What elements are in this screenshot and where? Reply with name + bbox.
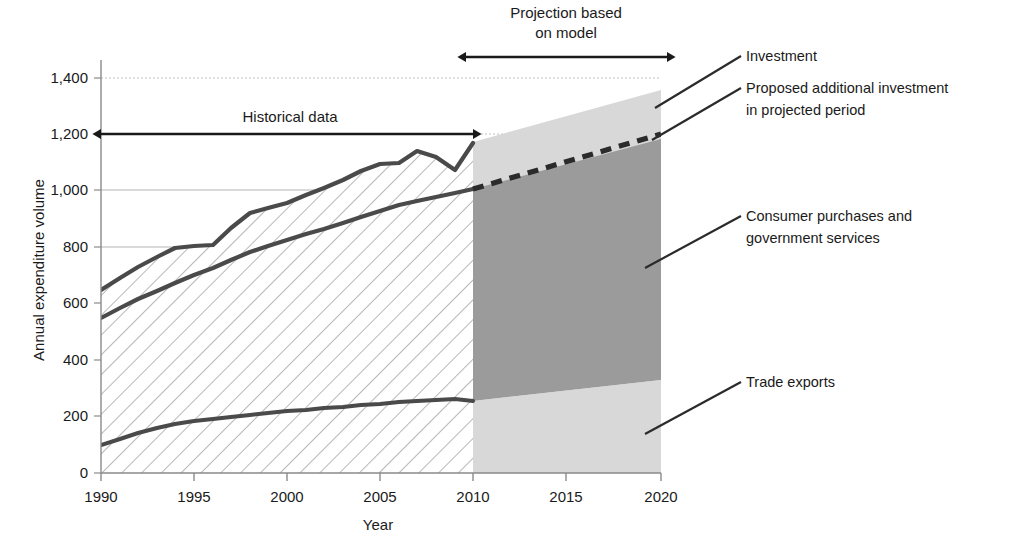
projection-span-label-line2: on model [535,24,597,41]
x-tick-label-1995: 1995 [177,488,210,505]
callout-proposed-label-line2: in projected period [746,102,865,118]
y-tick-label-1200: 1,200 [50,125,88,142]
y-tick-label-0: 0 [80,464,88,481]
x-tick-label-2005: 2005 [363,488,396,505]
callout-trade-exports-label: Trade exports [746,374,835,390]
y-tick-label-1000: 1,000 [50,181,88,198]
x-tick-label-2000: 2000 [270,488,303,505]
callout-proposed-label-line1: Proposed additional investment [746,80,948,96]
y-tick-label-1400: 1,400 [50,69,88,86]
y-tick-label-600: 600 [63,294,88,311]
historical-span-label: Historical data [242,108,338,125]
y-tick-label-400: 400 [63,351,88,368]
x-tick-label-2010: 2010 [456,488,489,505]
x-tick-label-1990: 1990 [84,488,117,505]
x-tick-label-2020: 2020 [644,488,677,505]
projection-region [473,90,661,473]
callout-investment-label: Investment [746,48,817,64]
y-tick-label-200: 200 [63,407,88,424]
chart-canvas: 1,400 1,200 1,000 800 600 400 200 0 1990… [0,0,1011,555]
y-axis-title: Annual expenditure volume [30,179,47,361]
y-tick-label-800: 800 [63,238,88,255]
x-tick-label-2015: 2015 [549,488,582,505]
callout-consumer-label-line2: government services [746,230,880,246]
expenditure-area-chart: 1,400 1,200 1,000 800 600 400 200 0 1990… [0,0,1011,555]
projection-span-label-line1: Projection based [510,4,622,21]
x-axis-title: Year [363,516,393,533]
callout-consumer-label-line1: Consumer purchases and [746,208,912,224]
